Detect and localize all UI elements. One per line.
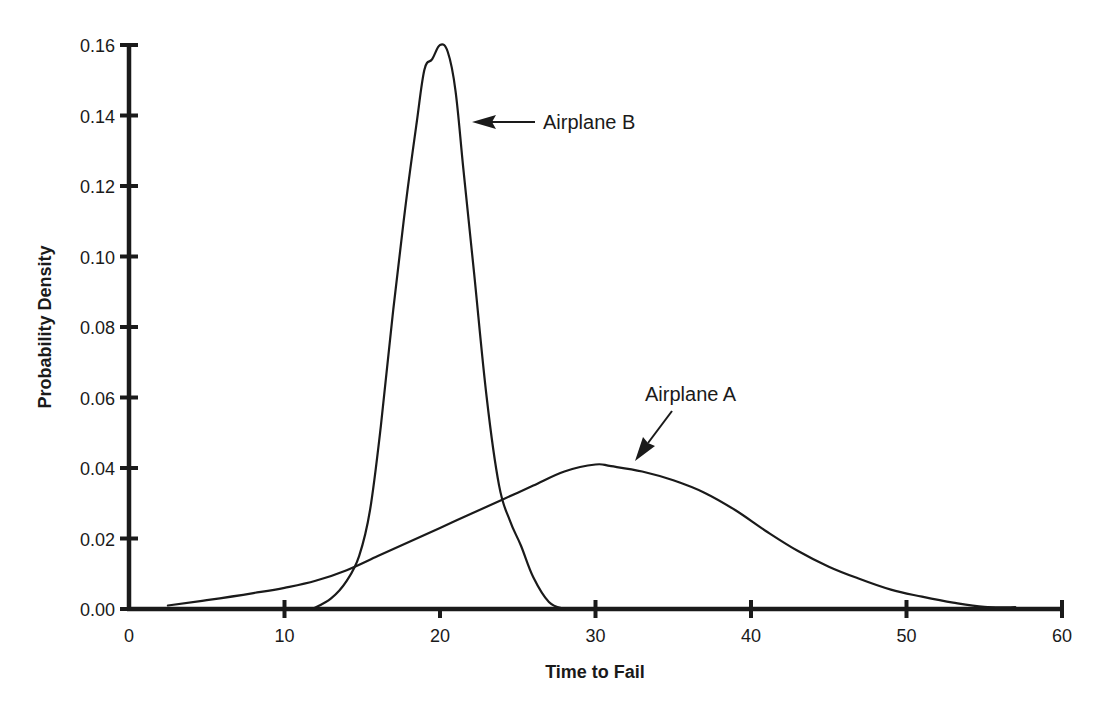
annotation-airplane-b: Airplane B (543, 111, 635, 133)
x-tick-label: 30 (585, 626, 605, 646)
y-tick-label: 0.14 (80, 107, 115, 127)
y-tick-label: 0.16 (80, 36, 115, 56)
y-tick-label: 0.06 (80, 389, 115, 409)
x-tick-label: 60 (1052, 626, 1072, 646)
y-tick-label: 0.04 (80, 459, 115, 479)
curve-airplane-a (168, 464, 1015, 607)
arrow-a-head-icon (635, 437, 655, 461)
y-tick-label: 0.12 (80, 177, 115, 197)
y-tick-label: 0.02 (80, 530, 115, 550)
x-tick-label: 50 (896, 626, 916, 646)
y-tick-label: 0.10 (80, 248, 115, 268)
y-tick-label: 0.00 (80, 600, 115, 620)
arrow-a-shaft (648, 411, 672, 443)
x-tick-label: 20 (430, 626, 450, 646)
annotation-airplane-a: Airplane A (645, 383, 737, 405)
curve-airplane-b (313, 44, 565, 609)
annotations: Airplane BAirplane A (472, 111, 737, 461)
y-axis-title: Probability Density (35, 245, 55, 408)
y-tick-label: 0.08 (80, 318, 115, 338)
probability-density-chart: 0.000.020.040.060.080.100.120.140.160102… (0, 0, 1105, 708)
x-tick-label: 40 (741, 626, 761, 646)
x-tick-label: 0 (124, 626, 134, 646)
x-tick-label: 10 (274, 626, 294, 646)
x-axis-title: Time to Fail (545, 662, 645, 682)
